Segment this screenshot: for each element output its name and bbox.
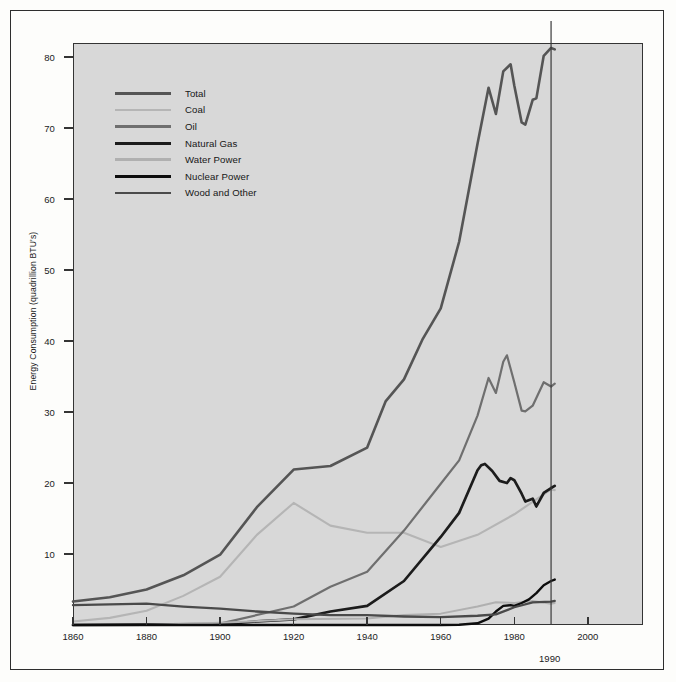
legend-label: Total xyxy=(171,88,206,99)
series-line-natural-gas xyxy=(73,464,555,625)
legend-item-natural-gas[interactable]: Natural Gas xyxy=(115,135,257,152)
legend-item-water-power[interactable]: Water Power xyxy=(115,151,257,168)
legend-swatch-line-icon xyxy=(115,109,171,112)
y-tick-label: 40 xyxy=(29,336,55,347)
legend-item-oil[interactable]: Oil xyxy=(115,118,257,135)
legend-swatch-line-icon xyxy=(115,158,171,160)
x-tick-mark xyxy=(146,617,147,625)
y-tick-label: 70 xyxy=(29,123,55,134)
x-tick-label: 1900 xyxy=(210,631,231,642)
legend-swatch-line-icon xyxy=(115,125,171,128)
outer-frame: Energy Consumption (quadrillion BTU's) 1… xyxy=(10,10,664,670)
marker-1990-label: 1990 xyxy=(539,653,560,664)
x-tick-label: 1920 xyxy=(283,631,304,642)
x-tick-mark xyxy=(72,617,73,625)
y-tick-mark xyxy=(64,127,73,128)
legend-label: Oil xyxy=(171,121,197,132)
chart-page: Energy Consumption (quadrillion BTU's) 1… xyxy=(0,0,676,682)
legend-swatch-line-icon xyxy=(115,92,171,95)
legend-label: Nuclear Power xyxy=(171,171,249,182)
y-tick-label: 60 xyxy=(29,194,55,205)
x-tick-mark xyxy=(219,617,220,625)
x-tick-label: 1980 xyxy=(504,631,525,642)
x-tick-mark xyxy=(293,617,294,625)
legend-item-nuclear-power[interactable]: Nuclear Power xyxy=(115,168,257,185)
legend-item-coal[interactable]: Coal xyxy=(115,102,257,119)
x-tick-label: 2000 xyxy=(577,631,598,642)
y-tick-mark xyxy=(64,269,73,270)
legend-item-total[interactable]: Total xyxy=(115,85,257,102)
x-tick-mark xyxy=(440,617,441,625)
y-tick-label: 10 xyxy=(29,549,55,560)
legend-swatch-line-icon xyxy=(115,192,171,195)
legend-label: Coal xyxy=(171,104,205,115)
legend-swatch-line-icon xyxy=(115,175,171,178)
y-tick-mark xyxy=(64,340,73,341)
y-tick-label: 80 xyxy=(29,52,55,63)
chart-legend: TotalCoalOilNatural GasWater PowerNuclea… xyxy=(115,85,257,201)
y-tick-mark xyxy=(64,411,73,412)
y-tick-label: 50 xyxy=(29,265,55,276)
x-tick-label: 1940 xyxy=(357,631,378,642)
legend-item-wood-and-other[interactable]: Wood and Other xyxy=(115,185,257,202)
x-tick-mark xyxy=(514,617,515,625)
y-tick-mark xyxy=(64,56,73,57)
series-line-oil xyxy=(73,355,555,625)
legend-label: Natural Gas xyxy=(171,138,237,149)
series-line-wood-and-other xyxy=(73,601,555,617)
x-tick-mark xyxy=(587,617,588,625)
y-tick-mark xyxy=(64,553,73,554)
x-tick-label: 1960 xyxy=(430,631,451,642)
y-tick-label: 30 xyxy=(29,407,55,418)
y-tick-mark xyxy=(64,198,73,199)
x-tick-label: 1880 xyxy=(136,631,157,642)
y-tick-mark xyxy=(64,482,73,483)
series-line-coal xyxy=(73,489,555,621)
x-tick-label: 1860 xyxy=(62,631,83,642)
legend-swatch-line-icon xyxy=(115,142,171,145)
y-axis-label: Energy Consumption (quadrillion BTU's) xyxy=(28,232,38,391)
y-tick-label: 20 xyxy=(29,478,55,489)
legend-label: Water Power xyxy=(171,154,241,165)
x-tick-mark xyxy=(366,617,367,625)
legend-label: Wood and Other xyxy=(171,187,257,198)
